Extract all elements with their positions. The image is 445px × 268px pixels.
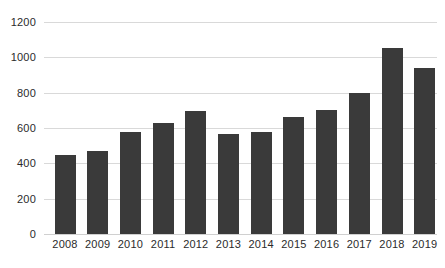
y-tick-label: 400: [17, 157, 36, 169]
bar[interactable]: [120, 132, 141, 234]
bar[interactable]: [414, 68, 435, 234]
x-tick-label: 2019: [405, 238, 445, 250]
bars: [44, 22, 437, 234]
y-tick-label: 200: [17, 193, 36, 205]
y-tick-label: 800: [17, 87, 36, 99]
x-axis: 2008200920102011201220132014201520162017…: [44, 238, 437, 256]
bar[interactable]: [185, 111, 206, 234]
y-tick-label: 1200: [11, 16, 36, 28]
y-tick-label: 0: [30, 228, 36, 240]
bar[interactable]: [87, 151, 108, 234]
bar[interactable]: [316, 110, 337, 234]
bar[interactable]: [283, 117, 304, 234]
plot-area: [44, 22, 437, 234]
y-tick-label: 1000: [11, 51, 36, 63]
bar-chart: 020040060080010001200 200820092010201120…: [0, 0, 445, 268]
bar[interactable]: [349, 93, 370, 234]
bar[interactable]: [251, 132, 272, 234]
y-tick-label: 600: [17, 122, 36, 134]
y-axis: 020040060080010001200: [0, 0, 44, 268]
bar[interactable]: [382, 48, 403, 234]
bar[interactable]: [153, 123, 174, 234]
bar[interactable]: [55, 155, 76, 234]
bar[interactable]: [218, 134, 239, 234]
gridline: [44, 234, 437, 235]
